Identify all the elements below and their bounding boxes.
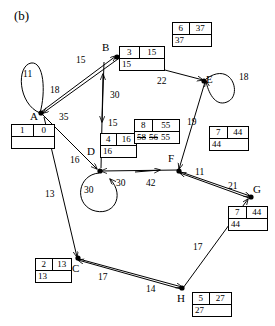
label-box-b-top-left: 3 — [120, 47, 140, 58]
edge-label-f-to-g: 21 — [228, 181, 238, 191]
label-box-h-top-row: 5 27 — [193, 293, 231, 305]
label-box-g-upper-bottom-row: 44 — [210, 139, 248, 150]
node-label-h: H — [177, 292, 185, 304]
edge-label-a-to-c: 13 — [45, 189, 55, 199]
label-box-g-bottom-row: 44 — [229, 219, 267, 230]
node-dot-d — [97, 168, 102, 173]
label-box-e-bottom-row: 37 — [173, 35, 211, 46]
node-dot-a — [38, 110, 43, 115]
label-box-c-bottom: 13 — [36, 271, 71, 282]
edge-f-to-g — [181, 172, 250, 196]
label-box-h-bottom: 27 — [193, 305, 231, 316]
label-box-h: 5 27 27 — [192, 292, 232, 317]
label-box-a: 1 0 — [11, 124, 55, 149]
label-box-a-top-row: 1 0 — [12, 125, 54, 137]
edge-label-b-to-d: 15 — [108, 118, 118, 128]
label-box-g-upper-top-row: 7 44 — [210, 127, 248, 139]
label-box-f-bottom-value-0: 58 — [136, 133, 147, 142]
label-box-f-bottom-value-1: 56 — [148, 133, 159, 142]
label-box-d-bottom-row: 16 — [101, 146, 136, 157]
label-box-f-bottom-value-2: 55 — [160, 133, 171, 142]
label-box-e-top-row: 6 37 — [173, 23, 211, 35]
label-box-b-bottom-row: 15 — [120, 59, 164, 70]
label-box-c: 2 13 13 — [35, 258, 72, 283]
edge-label-f-to-d: 42 — [146, 178, 156, 188]
label-box-b-bottom: 15 — [120, 59, 164, 70]
label-box-c-top-row: 2 13 — [36, 259, 71, 271]
label-box-b-top-row: 3 15 — [120, 47, 164, 59]
label-box-d-top-row: 4 16 — [101, 134, 136, 146]
edge-label-b-to-a: 18 — [50, 85, 60, 95]
node-label-e: E — [206, 73, 213, 85]
figure-caption: (b) — [14, 8, 29, 24]
node-label-c: C — [72, 262, 79, 274]
edge-label-h-to-g: 17 — [193, 242, 203, 252]
node-dot-h — [179, 285, 184, 290]
label-box-b-top-right: 15 — [140, 47, 164, 58]
node-label-g: G — [253, 183, 261, 195]
label-box-f-bottom-row: 58 56 55 — [135, 132, 179, 143]
label-box-d-bottom: 16 — [101, 146, 136, 157]
label-box-g-upper-top-right: 44 — [228, 127, 248, 138]
label-box-g: 7 44 44 — [228, 206, 268, 231]
node-dot-c — [75, 255, 80, 260]
label-box-g-top-right: 44 — [247, 207, 267, 218]
label-box-g-upper-top-left: 7 — [210, 127, 228, 138]
label-box-d-top-left: 4 — [101, 134, 117, 145]
label-box-e-bottom: 37 — [173, 35, 211, 46]
label-box-f-top-left: 8 — [135, 120, 153, 131]
edge-label-d-self-loop: 30 — [84, 185, 94, 195]
edge-c-to-h — [79, 259, 182, 287]
node-label-b: B — [102, 41, 109, 53]
label-box-e: 6 37 37 — [172, 22, 212, 47]
node-label-a: A — [30, 110, 38, 122]
label-box-g-upper-bottom: 44 — [210, 139, 248, 150]
edge-label-d-to-b: 30 — [110, 90, 120, 100]
edge-label-a-to-b: 15 — [76, 55, 86, 65]
edge-label-d-16: 16 — [70, 155, 80, 165]
label-box-c-bottom-row: 13 — [36, 271, 71, 282]
label-box-f-bottom-sequence: 58 56 55 — [135, 132, 172, 143]
label-box-a-bottom-row — [12, 137, 54, 148]
label-box-c-top-left: 2 — [36, 259, 53, 270]
edge-label-a-to-d: 35 — [59, 112, 69, 122]
edge-f-to-d — [101, 170, 178, 171]
label-box-g-top-row: 7 44 — [229, 207, 267, 219]
label-box-e-top-left: 6 — [173, 23, 190, 34]
edge-label-c-to-h: 14 — [146, 284, 156, 294]
figure-b-graph-diagram: (b) A B C D E F G H 11 18 15 35 16 13 30… — [0, 0, 275, 326]
label-box-f: 8 55 58 56 55 — [134, 119, 180, 144]
label-box-a-top-left: 1 — [12, 125, 34, 136]
label-box-g-top-left: 7 — [229, 207, 247, 218]
edge-g-to-f — [180, 173, 249, 198]
node-label-d: D — [87, 145, 95, 157]
label-box-h-top-left: 5 — [193, 293, 210, 304]
label-box-b: 3 15 15 — [119, 46, 165, 71]
label-box-c-top-right: 13 — [53, 259, 71, 270]
label-box-f-top-right: 55 — [153, 120, 179, 131]
node-label-f: F — [168, 152, 174, 164]
label-box-h-bottom-row: 27 — [193, 305, 231, 316]
edge-label-g-to-f: 11 — [195, 167, 204, 177]
node-dot-g — [248, 194, 253, 199]
edge-label-b-to-e: 22 — [157, 76, 167, 86]
label-box-h-top-right: 27 — [210, 293, 231, 304]
label-box-a-bottom — [12, 137, 54, 148]
label-box-e-top-right: 37 — [190, 23, 211, 34]
edge-label-e-self-loop: 18 — [239, 72, 249, 82]
edge-label-a-self-loop: 11 — [23, 69, 32, 79]
edge-label-e-to-f: 19 — [187, 117, 197, 127]
label-box-g-bottom: 44 — [229, 219, 267, 230]
label-box-g-upper: 7 44 44 — [209, 126, 249, 151]
edge-label-h-to-c: 17 — [98, 272, 108, 282]
label-box-d: 4 16 16 — [100, 133, 137, 158]
edge-h-to-c — [78, 260, 181, 289]
edge-label-d-incoming-30: 30 — [116, 178, 126, 188]
label-box-a-top-right: 0 — [34, 125, 55, 136]
node-dot-f — [176, 168, 181, 173]
label-box-f-top-row: 8 55 — [135, 120, 179, 132]
